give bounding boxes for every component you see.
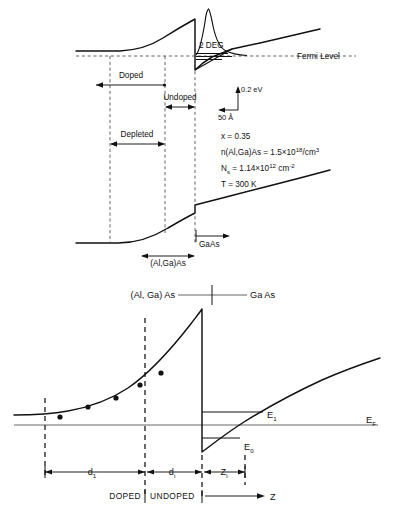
param-sheet-density: Ns = 1.14×1012 cm-2 xyxy=(221,162,295,175)
subband-e0-subscript: 0 xyxy=(250,447,254,454)
param-sheet-density-unit-exp: -2 xyxy=(289,162,295,169)
fermi-level-lower-label: EF xyxy=(366,415,376,427)
param-doping-density-unit-exp: 3 xyxy=(316,146,320,153)
doped-region-label: Doped xyxy=(119,71,144,80)
scale-length-label: 50 Å xyxy=(218,113,233,122)
undoped-caption: UNDOPED xyxy=(150,491,195,501)
dimension-zi-subscript: i xyxy=(226,472,227,479)
dimension-d1-subscript: 1 xyxy=(93,472,97,479)
gaas-material-label: GaAs xyxy=(199,240,219,249)
figure-text-layer: Fermi Level 2 DEG Doped Undoped Depleted… xyxy=(0,0,393,521)
algaas-material-label: (Al,Ga)As xyxy=(150,259,186,268)
subband-e1-subscript: 1 xyxy=(273,415,277,422)
subband-e1-label: E1 xyxy=(267,410,277,422)
scale-energy-label: 0.2 eV xyxy=(241,85,262,94)
depleted-region-label: Depleted xyxy=(121,130,154,139)
fermi-level-subscript: F xyxy=(372,420,376,427)
param-alloy-fraction: x = 0.35 xyxy=(221,132,251,141)
lower-material-right-label: Ga As xyxy=(250,290,275,300)
param-temperature: T = 300 K xyxy=(221,180,257,189)
subband-e0-label: E0 xyxy=(244,442,254,454)
param-doping-density-unit: /cm xyxy=(303,148,316,157)
param-sheet-density-value: = 1.14×10 xyxy=(230,164,270,173)
dimension-di-subscript: i xyxy=(174,472,175,479)
two-deg-label: 2 DEG xyxy=(199,41,224,50)
dimension-d1-label: d1 xyxy=(88,467,97,479)
lower-material-left-label: (Al, Ga) As xyxy=(131,290,176,300)
doped-caption: DOPED xyxy=(109,491,141,501)
z-axis-label: Z xyxy=(270,492,276,502)
undoped-region-label: Undoped xyxy=(163,93,197,102)
dimension-zi-label: Zi xyxy=(221,467,228,479)
param-sheet-density-unit: cm xyxy=(276,164,289,173)
param-doping-density: n(Al,Ga)As = 1.5×1018/cm3 xyxy=(221,146,320,157)
band-diagram-figure: Fermi Level 2 DEG Doped Undoped Depleted… xyxy=(0,0,393,521)
dimension-di-label: di xyxy=(169,467,176,479)
fermi-level-label: Fermi Level xyxy=(297,52,340,61)
param-doping-density-text: n(Al,Ga)As = 1.5×10 xyxy=(221,148,296,157)
